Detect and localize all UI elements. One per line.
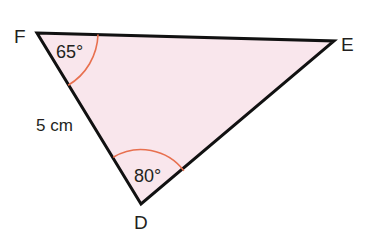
vertex-label-E: E	[341, 34, 354, 55]
triangle-diagram: F E D 65° 80° 5 cm	[0, 0, 371, 233]
angle-label-F: 65°	[56, 42, 83, 62]
vertex-label-D: D	[134, 212, 148, 233]
angle-label-D: 80°	[134, 166, 161, 186]
side-label-FD: 5 cm	[36, 116, 73, 135]
vertex-label-F: F	[14, 26, 26, 47]
